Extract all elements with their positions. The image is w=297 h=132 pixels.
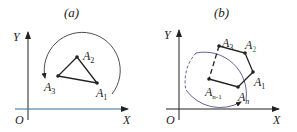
label-b2: A2 xyxy=(244,38,256,54)
polygon-dashed-edge xyxy=(209,46,219,79)
caption-a: (a) xyxy=(64,5,79,20)
point-b1 xyxy=(251,70,255,74)
y-label-a: Y xyxy=(13,30,21,44)
point-b3 xyxy=(217,44,221,48)
point-bn-1 xyxy=(207,77,211,81)
label-bn: An xyxy=(237,90,249,106)
point-bn xyxy=(236,85,240,89)
point-a1 xyxy=(95,81,99,85)
origin-label-a: O xyxy=(15,113,24,127)
label-a2: A2 xyxy=(82,49,94,65)
label-b3: A3 xyxy=(221,36,233,52)
rotation-arc-dashed xyxy=(185,53,196,90)
x-label-b: X xyxy=(272,113,281,127)
caption-b: (b) xyxy=(214,5,229,20)
origin-label-b: O xyxy=(166,113,175,127)
diagram-canvas: (a) Y X O A2 A3 A1 (b) Y X O xyxy=(0,0,297,132)
panel-b: (b) Y X O A3 A2 A1 An-1 An xyxy=(164,5,281,127)
point-a2 xyxy=(75,55,79,59)
label-a1: A1 xyxy=(95,86,107,102)
x-label-a: X xyxy=(122,113,131,127)
label-b1: A1 xyxy=(253,75,265,91)
point-a3 xyxy=(56,74,60,78)
panel-a: (a) Y X O A2 A3 A1 xyxy=(13,5,131,127)
y-label-b: Y xyxy=(164,28,172,42)
label-bn-1: An-1 xyxy=(204,85,222,101)
label-a3: A3 xyxy=(43,80,55,96)
